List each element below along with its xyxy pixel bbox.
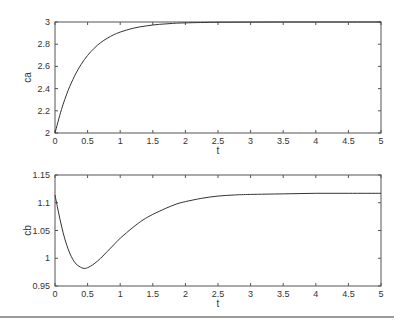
y-tick-label: 2.8 [37,39,50,49]
y-tick-label: 2 [45,128,50,138]
divider-line [0,316,394,318]
x-axis-label: t [217,145,220,156]
x-tick-label: 0.5 [81,289,94,299]
x-tick-label: 3.5 [277,136,290,146]
y-tick-label: 1.1 [37,198,50,208]
x-tick-label: 4 [313,289,318,299]
x-tick-label: 3 [248,289,253,299]
y-axis-label: ca [22,72,33,83]
y-tick-label: 1 [45,253,50,263]
x-tick-label: 2 [183,289,188,299]
x-axis-label: t [217,298,220,309]
x-tick-label: 4 [313,136,318,146]
x-tick-label: 0 [52,136,57,146]
x-tick-label: 2 [183,136,188,146]
x-tick-label: 4.5 [342,136,355,146]
y-tick-label: 3 [45,17,50,27]
x-tick-label: 1 [118,289,123,299]
plot-ca: 00.511.522.533.544.5522.22.42.62.83tca [22,17,384,156]
series-line-cb [55,193,381,268]
x-tick-label: 1.5 [147,136,160,146]
y-tick-label: 0.95 [32,281,50,291]
x-tick-label: 0.5 [81,136,94,146]
x-tick-label: 1.5 [147,289,160,299]
x-tick-label: 1 [118,136,123,146]
x-tick-label: 5 [378,136,383,146]
plot-cb: 00.511.522.533.544.550.9511.051.11.15tcb [22,170,384,309]
y-tick-label: 1.15 [32,170,50,180]
x-tick-label: 4.5 [342,289,355,299]
y-tick-label: 1.05 [32,226,50,236]
y-axis-label: cb [22,225,33,236]
plot-frame [55,22,381,133]
plot-frame [55,175,381,286]
series-line-ca [55,22,381,133]
x-tick-label: 0 [52,289,57,299]
figure: 00.511.522.533.544.5522.22.42.62.83tca 0… [0,0,400,321]
x-tick-label: 5 [378,289,383,299]
x-tick-label: 3.5 [277,289,290,299]
y-tick-label: 2.6 [37,61,50,71]
x-tick-label: 3 [248,136,253,146]
y-tick-label: 2.2 [37,106,50,116]
y-tick-label: 2.4 [37,84,50,94]
